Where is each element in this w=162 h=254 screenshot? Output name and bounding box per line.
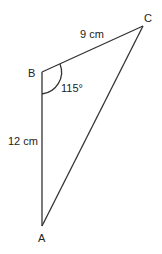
side-label-bc: 9 cm: [80, 28, 104, 40]
side-ac: [42, 26, 143, 226]
angle-label-b: 115°: [61, 82, 83, 94]
triangle-diagram: C 9 cm B 115° 12 cm A: [0, 0, 162, 254]
side-label-ab: 12 cm: [8, 135, 38, 147]
vertex-label-c: C: [144, 12, 152, 24]
angle-arc-b: [42, 64, 62, 94]
vertex-label-b: B: [28, 67, 35, 79]
triangle-shape: [42, 26, 143, 226]
vertex-label-a: A: [38, 232, 46, 244]
